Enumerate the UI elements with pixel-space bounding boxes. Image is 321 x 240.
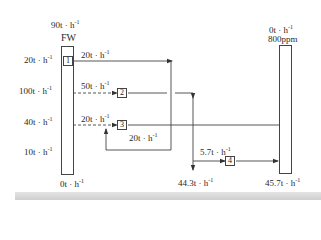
unit-1-box: 1: [63, 56, 73, 66]
sink-concentration: 800ppm: [268, 34, 298, 44]
unit2-flow-label: 50t · h-1: [81, 81, 110, 91]
fw-inflow-2: 100t · h-1: [19, 86, 52, 96]
fw-inflow-1: 20t · h-1: [24, 55, 53, 65]
unit-2-box: 2: [117, 88, 127, 98]
unit3-flow-label: 20t · h-1: [81, 114, 110, 124]
fw-label: FW: [61, 33, 76, 43]
fw-bottom-flow: 0t · h-1: [60, 179, 84, 189]
unit4-flow-label: 5.7t · h-1: [200, 147, 231, 157]
fw-inflow-4: 10t · h-1: [24, 147, 53, 157]
bottom-band: [15, 192, 321, 200]
fw-inflow-3: 40t · h-1: [24, 117, 53, 127]
wastewater-flow: 44.3t · h-1: [178, 178, 213, 188]
fw-top-flow: 90t · h-1: [51, 20, 80, 30]
recycle-flow-label: 20t · h-1: [129, 133, 158, 143]
sink-bottom-flow: 45.7t · h-1: [265, 178, 300, 188]
unit1-flow-label: 20t · h-1: [81, 50, 110, 60]
sink-column: [279, 45, 292, 174]
unit2-outlet-line-b: [175, 93, 193, 98]
unit-3-box: 3: [117, 120, 127, 130]
unit-4-box: 4: [225, 156, 235, 166]
